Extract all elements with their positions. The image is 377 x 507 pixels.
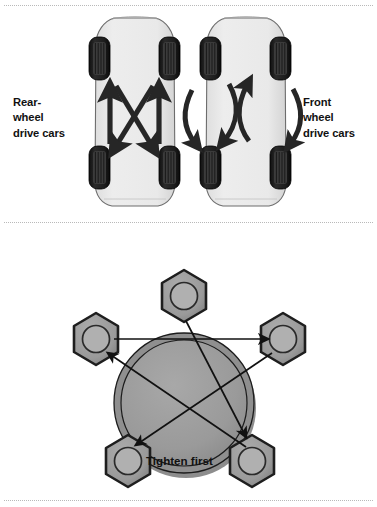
label-front-line-3: drive cars: [303, 126, 377, 141]
tire-front-right: [159, 37, 180, 80]
label-front-line-1: Front: [303, 95, 377, 110]
label-rear-line-3: drive cars: [13, 126, 91, 141]
tire-front-left: [200, 37, 221, 80]
label-tighten-first: Tighten first: [146, 454, 213, 467]
label-front-wheel-drive: Front wheel drive cars: [303, 95, 377, 141]
tire-rear-right: [270, 146, 291, 189]
lug-nut-top: [162, 270, 206, 322]
lug-nut-bottom-left: [106, 435, 150, 487]
label-front-line-2: wheel: [303, 110, 377, 125]
label-rear-wheel-drive: Rear- wheel drive cars: [13, 95, 91, 141]
label-rear-line-1: Rear-: [13, 95, 91, 110]
front-wheel-drive-car: [185, 17, 300, 206]
tire-front-right: [270, 37, 291, 80]
tire-front-left: [89, 37, 110, 80]
figure-root: Rear- wheel drive cars Front wheel drive…: [0, 0, 377, 507]
panel-tire-rotation: Rear- wheel drive cars Front wheel drive…: [0, 6, 377, 220]
lug-nut-bottom-right: [230, 435, 274, 487]
panel-lug-nut-sequence: Tighten first Third Fourth Fifth Second: [0, 223, 377, 500]
divider-bottom: [4, 500, 373, 502]
tire-rear-left: [89, 146, 110, 189]
lug-nut-left: [74, 313, 118, 365]
tire-rear-right: [159, 146, 180, 189]
tire-rear-left: [200, 146, 221, 189]
label-rear-line-2: wheel: [13, 110, 91, 125]
rear-wheel-drive-car: [89, 17, 180, 206]
